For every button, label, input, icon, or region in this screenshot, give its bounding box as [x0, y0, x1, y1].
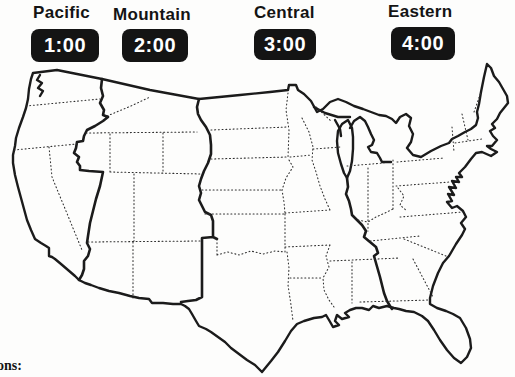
mountain-central-boundary-line [181, 99, 217, 302]
us-map-svg [0, 58, 515, 377]
puget-sound-line [37, 75, 43, 96]
worksheet-page: Pacific Mountain Central Eastern 1:00 2:… [0, 0, 515, 377]
state-borders-dotted [14, 92, 482, 321]
clock-central: 3:00 [254, 29, 316, 60]
pacific-mountain-boundary-line [74, 79, 108, 280]
clock-eastern: 4:00 [391, 27, 455, 60]
central-eastern-boundary-line [346, 178, 392, 309]
timezone-label-pacific: Pacific [33, 3, 90, 23]
timezone-label-mountain: Mountain [113, 5, 191, 25]
us-timezone-map [0, 58, 515, 377]
cutoff-directions-text: ons: [0, 358, 22, 374]
michigan-lower-peninsula-outline [350, 117, 391, 162]
us-outline-path [13, 64, 508, 372]
timezone-label-central: Central [254, 3, 315, 23]
timezone-label-eastern: Eastern [388, 2, 452, 22]
